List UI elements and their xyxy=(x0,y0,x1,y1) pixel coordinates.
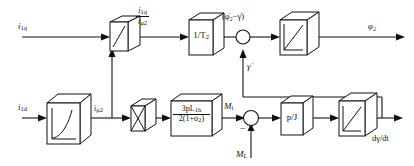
diagram-vector-layer xyxy=(0,0,414,166)
wire-i1d-to-curve xyxy=(22,115,47,122)
input-label-i1d: i1d xyxy=(18,103,27,113)
signal-label-omega-difference: (φ̇₂−γ̇) xyxy=(222,12,244,21)
input-label-ml: ML xyxy=(236,150,247,160)
wire-pj-to-integrator xyxy=(313,115,339,122)
multiplier-block[interactable] xyxy=(131,99,156,131)
wire-imu2-branch-to-divider xyxy=(109,48,116,118)
signal-label-imu2: iμ2 xyxy=(94,105,103,114)
wire-sum-to-pj xyxy=(259,115,281,122)
torque-formula-denominator: 2(1+σ2) xyxy=(173,114,210,124)
wire-integrator-to-phi2-output xyxy=(319,34,405,41)
wire-torque-gain-to-sum xyxy=(222,115,245,122)
wire-i1q-to-divider xyxy=(22,34,110,41)
summing-junction-phi2[interactable] xyxy=(236,30,250,44)
gain-block-p-over-j-label: p/J xyxy=(281,113,303,122)
sum-minus-sign: − xyxy=(240,124,246,134)
integrator-block-gamma[interactable] xyxy=(339,93,377,136)
wire-branch-to-multiplier xyxy=(112,115,131,122)
signal-label-mi: Mi xyxy=(224,102,233,112)
magnetizing-curve-block[interactable] xyxy=(47,94,91,144)
wire-multiplier-to-torque-gain xyxy=(156,115,171,122)
ratio-denominator: iμ2 xyxy=(136,16,149,27)
gain-block-1-over-t2-label: 1/T2 xyxy=(189,31,213,41)
wire-sum-to-integrator xyxy=(250,34,280,41)
block-diagram-canvas: i1q i1q iμ2 1/T2 (φ̇₂−γ̇) γ̇ φ₂ i1d iμ2 … xyxy=(0,0,414,166)
signal-label-iq-over-imu2: i1q iμ2 xyxy=(136,6,149,27)
wire-ml-into-sum xyxy=(248,123,255,158)
torque-constant-formula: 3pL1h 2(1+σ2) xyxy=(173,105,210,124)
input-label-i1q: i1q xyxy=(18,22,27,32)
wire-divider-to-gain xyxy=(134,34,189,41)
output-label-phi2: φ₂ xyxy=(368,22,376,31)
torque-formula-numerator: 3pL1h xyxy=(173,105,210,114)
ratio-numerator: i1q xyxy=(136,6,149,16)
output-label-dgamma-dt: dγ/dt xyxy=(372,134,389,143)
signal-label-gamma-dot: γ̇ xyxy=(247,62,251,71)
integrator-block-phi2[interactable] xyxy=(280,12,319,55)
